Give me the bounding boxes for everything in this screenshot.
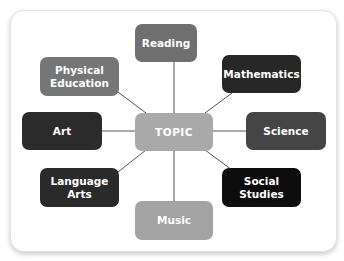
node-physical-education: Physical Education [40,57,119,96]
node-art: Art [22,112,102,150]
node-mathematics: Mathematics [222,55,301,93]
node-language-arts: Language Arts [40,168,119,207]
node-social-studies: Social Studies [222,168,301,207]
node-reading: Reading [135,24,197,62]
connector-physical-education [118,92,146,113]
connector-social-studies [205,150,232,170]
connector-mathematics [205,93,232,113]
node-music: Music [135,201,213,240]
node-science: Science [246,112,326,150]
connector-language-arts [118,150,146,172]
node-topic-center: TOPIC [135,113,213,151]
